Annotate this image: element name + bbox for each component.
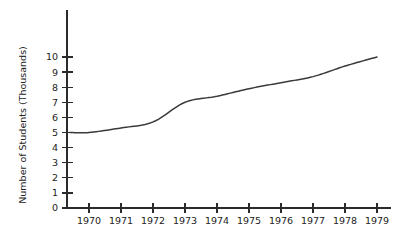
y-tick-label-6: 6 bbox=[52, 112, 58, 123]
y-tick-label-2: 2 bbox=[52, 172, 58, 183]
x-tick-label-1973: 1973 bbox=[173, 215, 197, 226]
y-axis-title: Number of Students (Thousands) bbox=[17, 46, 28, 204]
x-tick-labels: 1970 1971 1972 1973 1974 1975 1976 1977 … bbox=[77, 215, 389, 226]
y-tick-label-10: 10 bbox=[46, 51, 58, 62]
y-tick-label-7: 7 bbox=[52, 97, 58, 108]
x-tick-label-1974: 1974 bbox=[205, 215, 229, 226]
line-chart-canvas: 0 1 2 3 4 5 6 7 8 9 10 1970 bbox=[0, 0, 412, 243]
x-tick-label-1976: 1976 bbox=[269, 215, 293, 226]
x-tick-label-1977: 1977 bbox=[301, 215, 325, 226]
x-tick-label-1972: 1972 bbox=[141, 215, 165, 226]
x-tick-label-1978: 1978 bbox=[333, 215, 357, 226]
y-tick-label-9: 9 bbox=[52, 67, 58, 78]
y-tick-label-4: 4 bbox=[52, 142, 58, 153]
x-tick-label-1971: 1971 bbox=[109, 215, 133, 226]
y-tick-label-1: 1 bbox=[52, 187, 58, 198]
y-tick-label-0: 0 bbox=[52, 202, 58, 213]
x-tick-label-1975: 1975 bbox=[237, 215, 261, 226]
data-series-line bbox=[70, 57, 377, 133]
x-tick-label-1970: 1970 bbox=[77, 215, 101, 226]
chart-figure: 0 1 2 3 4 5 6 7 8 9 10 1970 bbox=[0, 0, 412, 243]
y-tick-labels: 0 1 2 3 4 5 6 7 8 9 10 bbox=[46, 51, 58, 213]
y-tick-label-3: 3 bbox=[52, 157, 58, 168]
x-tick-label-1979: 1979 bbox=[365, 215, 389, 226]
y-tick-label-5: 5 bbox=[52, 127, 58, 138]
y-tick-label-8: 8 bbox=[52, 82, 58, 93]
